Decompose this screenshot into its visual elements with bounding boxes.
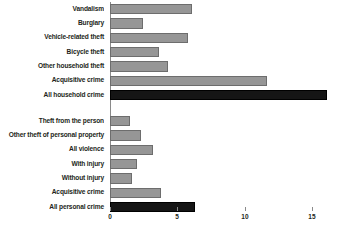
x-axis-tick-label: 15 [303,213,322,220]
category-label: Without injury [7,174,104,183]
bar [110,202,195,212]
x-axis-tick [312,207,313,211]
category-label: Acquisitive crime [7,76,104,85]
bar [110,90,327,100]
category-label: With injury [7,160,104,169]
category-label: All personal crime [7,203,104,212]
bar [110,173,133,183]
category-label: Vandalism [7,5,104,14]
bar [110,18,144,28]
bar [110,145,153,155]
x-axis-tick [245,207,246,211]
bar [110,116,130,126]
bar [110,188,161,198]
bar [110,76,268,86]
bar [110,159,137,169]
category-label: Other theft of personal property [7,131,104,140]
x-axis-tick-label: 5 [168,213,187,220]
category-label: Bicycle theft [7,48,104,57]
bar [110,47,160,57]
bar [110,61,168,71]
bar-chart: VandalismBurglaryVehicle-related theftBi… [0,0,345,240]
x-axis-tick [110,207,111,211]
category-label: Vehicle-related theft [7,33,104,42]
category-label: Acquisitive crime [7,188,104,197]
bar [110,4,192,14]
x-axis-tick-label: 0 [100,213,119,220]
category-label: All household crime [7,91,104,100]
category-label: Theft from the person [7,117,104,126]
category-label: Burglary [7,19,104,28]
category-label: Other household theft [7,62,104,71]
bar [110,130,141,140]
x-axis-tick [177,207,178,211]
bar [110,33,188,43]
x-axis-tick-label: 10 [235,213,254,220]
category-label: All violence [7,145,104,154]
